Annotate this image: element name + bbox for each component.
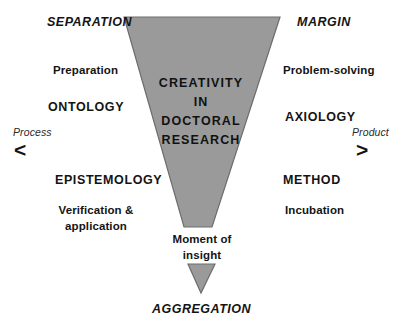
funnel-diagram: CREATIVITY IN DOCTORAL RESEARCH SEPARATI… (0, 0, 402, 331)
paradigm-method: METHOD (283, 173, 341, 189)
process-word-preparation: Preparation (53, 63, 118, 77)
paradigm-ontology: ONTOLOGY (48, 100, 124, 116)
core-line-2: IN (137, 93, 265, 112)
chevron-right-icon: > (356, 139, 368, 160)
funnel-core-label: CREATIVITY IN DOCTORAL RESEARCH (137, 74, 265, 150)
process-word-incubation: Incubation (285, 203, 344, 217)
paradigm-epistemology: EPISTEMOLOGY (55, 173, 162, 189)
chevron-left-icon: < (14, 139, 26, 160)
process-word-problem-solving: Problem-solving (283, 63, 375, 77)
core-line-1: CREATIVITY (137, 74, 265, 93)
process-word-verification-application: Verification & application (44, 203, 148, 234)
lower-apex-triangle (188, 264, 215, 293)
funnel-shapes (0, 0, 402, 331)
stage-heading-margin: MARGIN (297, 15, 351, 31)
moment-of-insight-label: Moment of insight (160, 232, 244, 263)
core-line-3: DOCTORAL (137, 112, 265, 131)
stage-heading-separation: SEPARATION (47, 15, 132, 31)
stage-heading-aggregation: AGGREGATION (152, 302, 251, 318)
core-line-4: RESEARCH (137, 131, 265, 150)
paradigm-axiology: AXIOLOGY (285, 110, 356, 126)
